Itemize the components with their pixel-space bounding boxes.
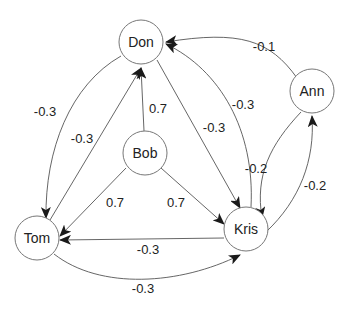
edge-label-ann-to-don: -0.1 (253, 39, 275, 54)
node-bob: Bob (123, 131, 167, 175)
graph-svg: -0.1 -0.3 -0.3 -0.3 -0.3 0.7 0.7 0.7 -0.… (0, 0, 355, 309)
node-tom: Tom (15, 216, 59, 260)
node-kris: Kris (224, 207, 268, 251)
edge-ann-to-don (166, 37, 297, 78)
edge-label-tom-to-kris: -0.3 (132, 281, 154, 296)
edge-label-bob-to-don: 0.7 (149, 101, 167, 116)
edge-label-tom-to-don: -0.3 (71, 131, 93, 146)
edge-label-kris-to-don: -0.3 (232, 97, 254, 112)
edge-bob-to-don (141, 68, 144, 131)
edge-label-ann-to-kris: -0.2 (245, 161, 267, 176)
node-don: Don (119, 20, 163, 64)
edge-label-bob-to-tom: 0.7 (106, 195, 124, 210)
edge-tom-to-kris (54, 254, 240, 279)
edge-kris-to-tom (60, 238, 224, 240)
edge-label-don-to-tom: -0.3 (34, 104, 56, 119)
node-kris-label: Kris (234, 221, 258, 237)
node-tom-label: Tom (24, 230, 50, 246)
edge-kris-to-ann (266, 116, 312, 232)
node-don-label: Don (128, 34, 154, 50)
edge-label-bob-to-kris: 0.7 (167, 195, 185, 210)
node-ann: Ann (290, 69, 334, 113)
node-bob-label: Bob (133, 145, 158, 161)
edge-label-kris-to-tom: -0.3 (137, 242, 159, 257)
node-ann-label: Ann (300, 83, 325, 99)
edge-label-don-to-kris: -0.3 (203, 120, 225, 135)
edge-don-to-kris (157, 60, 240, 208)
graph-canvas: -0.1 -0.3 -0.3 -0.3 -0.3 0.7 0.7 0.7 -0.… (0, 0, 355, 309)
edge-label-kris-to-ann: -0.2 (304, 178, 326, 193)
